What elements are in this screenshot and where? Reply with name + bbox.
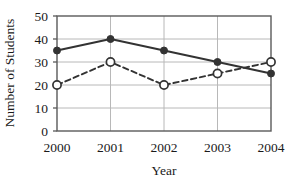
y-tick-label-10: 10 bbox=[35, 101, 49, 116]
data-point bbox=[160, 81, 168, 89]
y-tick-label-50: 50 bbox=[35, 9, 49, 24]
x-tick-label-2004: 2004 bbox=[258, 140, 285, 155]
x-tick-label-2002: 2002 bbox=[151, 140, 178, 155]
data-point bbox=[268, 70, 275, 77]
y-axis-title: Number of Students bbox=[2, 19, 17, 128]
x-tick-label-2000: 2000 bbox=[44, 140, 71, 155]
data-point bbox=[106, 58, 114, 66]
x-tick-label-2003: 2003 bbox=[204, 140, 231, 155]
data-point bbox=[54, 47, 61, 54]
data-point bbox=[53, 81, 61, 89]
data-point bbox=[161, 47, 168, 54]
x-tick-label-2001: 2001 bbox=[97, 140, 124, 155]
data-point bbox=[267, 58, 275, 66]
y-tick-label-0: 0 bbox=[41, 124, 48, 139]
y-tick-label-20: 20 bbox=[35, 78, 49, 93]
data-point bbox=[214, 59, 221, 66]
y-tick-label-40: 40 bbox=[35, 32, 49, 47]
x-axis-title: Year bbox=[152, 163, 177, 178]
chart-background bbox=[0, 0, 293, 193]
line-chart: 50 40 30 20 10 0 2000 2001 2002 2003 200… bbox=[0, 0, 293, 193]
data-point bbox=[213, 69, 221, 77]
data-point bbox=[107, 36, 114, 43]
chart-canvas: 50 40 30 20 10 0 2000 2001 2002 2003 200… bbox=[0, 0, 293, 193]
y-tick-label-30: 30 bbox=[35, 55, 49, 70]
